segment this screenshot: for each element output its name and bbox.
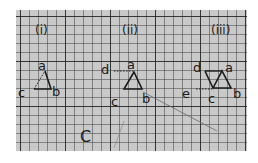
figure-2-triangle: [114, 71, 142, 89]
figure-3-label-d: d: [193, 60, 201, 75]
diagram-canvas: (i) (ii) (iii) a b c d a b c d a e c b C: [0, 0, 258, 163]
figure-3-caption: (iii): [211, 23, 230, 37]
figure-1-label-b: b: [52, 84, 60, 99]
figure-3-label-e: e: [182, 86, 190, 101]
figure-1-label-c: c: [18, 85, 25, 100]
figure-3-label-a: a: [225, 60, 233, 75]
figure-2-caption: (ii): [122, 23, 138, 37]
faint-diagonal-line: [143, 92, 217, 131]
figure-2-label-c: c: [111, 94, 118, 109]
figure-1-triangle: [34, 71, 51, 89]
figure-2-label-d: d: [101, 62, 109, 77]
figure-2-label-a: a: [127, 57, 135, 72]
faint-stroke: [114, 121, 124, 148]
figure-3-label-c: c: [208, 91, 215, 106]
figure-1-caption: (i): [35, 23, 48, 37]
label-big-c: C: [80, 127, 91, 146]
figure-1-label-a: a: [38, 58, 46, 73]
figure-3-label-b: b: [233, 86, 241, 101]
